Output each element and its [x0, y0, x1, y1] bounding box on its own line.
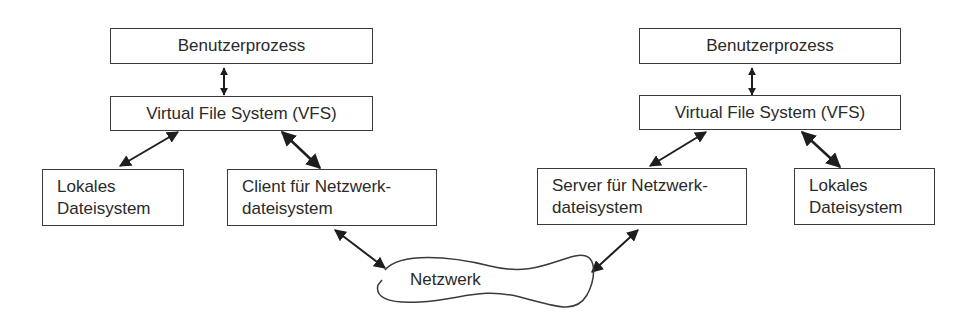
network-label: Netzwerk — [410, 270, 481, 290]
left-client-box: Client für Netzwerk- dateisystem — [227, 169, 437, 226]
left-local-fs-line2: Dateisystem — [57, 198, 183, 220]
right-vfs-label: Virtual File System (VFS) — [675, 102, 866, 124]
right-user-process-box: Benutzerprozess — [639, 28, 901, 64]
arrow-left-vfs-local — [120, 132, 178, 166]
arrow-left-vfs-client — [282, 132, 320, 168]
right-local-fs-box: Lokales Dateisystem — [794, 168, 935, 225]
left-user-process-box: Benutzerprozess — [110, 28, 373, 64]
left-client-line2: dateisystem — [242, 198, 436, 220]
arrow-right-vfs-local — [802, 132, 840, 167]
left-client-line1: Client für Netzwerk- — [242, 176, 436, 198]
right-server-box: Server für Netzwerk- dateisystem — [537, 168, 747, 225]
arrow-server-network — [592, 230, 638, 272]
left-user-process-label: Benutzerprozess — [178, 35, 306, 57]
right-vfs-box: Virtual File System (VFS) — [639, 95, 901, 130]
right-local-fs-line1: Lokales — [809, 175, 934, 197]
arrow-right-vfs-server — [650, 132, 706, 166]
left-local-fs-line1: Lokales — [57, 176, 183, 198]
right-local-fs-line2: Dateisystem — [809, 197, 934, 219]
left-vfs-label: Virtual File System (VFS) — [146, 103, 337, 125]
left-vfs-box: Virtual File System (VFS) — [110, 96, 373, 131]
right-server-line1: Server für Netzwerk- — [552, 175, 746, 197]
arrow-client-network — [335, 230, 385, 268]
left-local-fs-box: Lokales Dateisystem — [42, 169, 184, 226]
right-user-process-label: Benutzerprozess — [706, 35, 834, 57]
right-server-line2: dateisystem — [552, 197, 746, 219]
